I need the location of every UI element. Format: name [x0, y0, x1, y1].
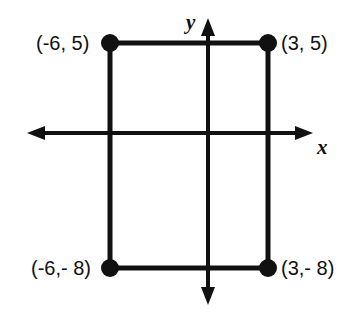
y-axis — [201, 18, 215, 305]
y-axis-up-arrowhead — [201, 18, 215, 36]
vertex-dot-bottom-left — [101, 259, 119, 277]
y-axis-down-arrowhead — [201, 287, 215, 305]
y-axis-label: y — [186, 12, 195, 33]
vertex-label-top-right: (3, 5) — [281, 33, 328, 53]
x-axis-right-arrowhead — [295, 126, 313, 140]
rectangle-shape — [110, 43, 268, 268]
vertex-label-top-left: (-6, 5) — [36, 33, 89, 53]
vertex-dot-top-left — [101, 34, 119, 52]
vertex-dot-top-right — [259, 34, 277, 52]
x-axis-left-arrowhead — [27, 126, 45, 140]
coordinate-plane-figure: (-6, 5) (3, 5) (3,- 8) (-6,- 8) y x — [0, 0, 362, 312]
vertex-label-bottom-left: (-6,- 8) — [31, 258, 91, 278]
x-axis-label: x — [317, 137, 328, 158]
vertex-label-bottom-right: (3,- 8) — [281, 258, 334, 278]
vertex-dot-bottom-right — [259, 259, 277, 277]
